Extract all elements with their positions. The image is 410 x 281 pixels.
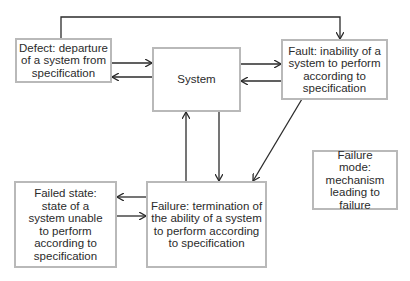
failure-label: Failure: termination of the ability of a… (150, 200, 263, 250)
failed-state-label: Failed state: state of a system unable t… (26, 187, 105, 262)
fault-label: Fault: inability of a system to perform … (285, 45, 384, 95)
fault-node: Fault: inability of a system to perform … (281, 39, 388, 100)
system-node: System (152, 47, 241, 112)
failed-state-node: Failed state: state of a system unable t… (14, 181, 117, 268)
failure-mode-label: Failure mode: mechanism leading to failu… (322, 149, 388, 212)
failure-mode-node: Failure mode: mechanism leading to failu… (312, 150, 398, 210)
defect-label: Defect: departure of a system from speci… (19, 42, 108, 80)
arrow-fault-to-failure (253, 99, 302, 181)
defect-node: Defect: departure of a system from speci… (15, 38, 112, 83)
failure-node: Failure: termination of the ability of a… (146, 181, 267, 268)
arrow-defect-to-fault (61, 17, 340, 39)
system-label: System (177, 73, 215, 86)
